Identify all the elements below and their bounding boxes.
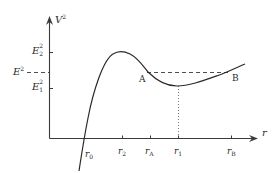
label-r1: r1 bbox=[174, 147, 182, 157]
label-E2sq: E22 bbox=[32, 46, 44, 56]
point-label-B: B bbox=[232, 74, 239, 83]
potential-curve bbox=[79, 51, 245, 171]
label-r0: r0 bbox=[85, 150, 93, 160]
label-r2: r2 bbox=[118, 147, 126, 157]
label-E1sq: E21 bbox=[32, 82, 44, 92]
label-rA: rA bbox=[145, 147, 154, 157]
label-rB: rB bbox=[227, 147, 236, 157]
x-axis-label: r bbox=[262, 128, 267, 138]
label-Esq: E2 bbox=[13, 66, 24, 77]
potential-diagram: V2 E22 E2 E21 A B r r0 r2 rA r1 rB bbox=[0, 0, 276, 173]
point-label-A: A bbox=[139, 75, 146, 84]
y-axis-label: V2 bbox=[55, 14, 66, 25]
